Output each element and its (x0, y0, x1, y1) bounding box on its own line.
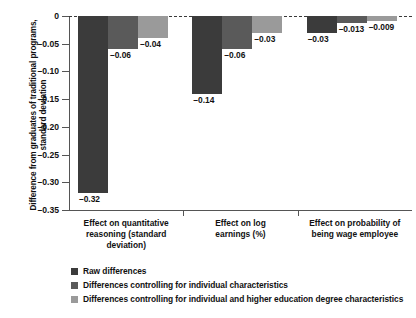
bar-value-label: –0.03 (254, 34, 275, 44)
bar (337, 16, 367, 23)
category-label: Effect on probability ofbeing wage emplo… (298, 218, 412, 240)
legend-label: Differences controlling for individual a… (83, 294, 403, 304)
x-tick-mark (183, 210, 184, 216)
bar-value-label: –0.03 (308, 34, 329, 44)
y-tick-mark (62, 155, 69, 156)
y-tick-label: 0 (13, 11, 59, 21)
bar (138, 16, 168, 38)
bar (192, 16, 222, 94)
bar-value-label: –0.14 (193, 95, 214, 105)
bar-value-label: –0.06 (224, 50, 245, 60)
y-tick-label: –0.15 (13, 94, 59, 104)
y-tick-mark (62, 71, 69, 72)
y-tick-label: –0.30 (13, 177, 59, 187)
bar (222, 16, 252, 49)
y-tick-label: –0.20 (13, 122, 59, 132)
y-tick-label: –0.25 (13, 150, 59, 160)
y-axis-title: Difference from graduates of traditional… (25, 0, 53, 230)
y-tick-mark (62, 16, 69, 17)
bar (252, 16, 282, 33)
legend-swatch-icon (71, 282, 78, 289)
bar (367, 16, 397, 21)
y-tick-label: –0.35 (13, 205, 59, 215)
y-tick-label: –0.05 (13, 39, 59, 49)
category-label-line: earnings (%) (183, 229, 297, 240)
legend-item: Differences controlling for individual a… (71, 292, 403, 306)
legend-item: Differences controlling for individual c… (71, 278, 403, 292)
category-label-line: Effect on probability of (298, 218, 412, 229)
category-label: Effect on quantitativereasoning (standar… (69, 218, 183, 251)
bar-value-label: –0.013 (339, 24, 365, 34)
y-tick-mark (62, 182, 69, 183)
bar-chart: Difference from graduates of traditional… (0, 0, 416, 318)
y-tick-mark (62, 210, 69, 211)
y-tick-mark (62, 44, 69, 45)
bar (307, 16, 337, 33)
legend-swatch-icon (71, 296, 78, 303)
bar-value-label: –0.009 (369, 22, 395, 32)
x-tick-mark (298, 210, 299, 216)
x-axis-line (69, 210, 412, 211)
bar-value-label: –0.04 (140, 39, 161, 49)
category-label-line: Effect on quantitative (69, 218, 183, 229)
y-axis-line (69, 16, 70, 211)
category-label-line: being wage employee (298, 229, 412, 240)
legend-swatch-icon (71, 268, 78, 275)
category-label-line: reasoning (standard (69, 229, 183, 240)
bar-value-label: –0.06 (110, 50, 131, 60)
legend-label: Raw differences (83, 266, 146, 276)
bar (108, 16, 138, 49)
category-label-line: deviation) (69, 240, 183, 251)
category-label: Effect on logearnings (%) (183, 218, 297, 240)
y-tick-mark (62, 99, 69, 100)
y-tick-mark (62, 127, 69, 128)
category-label-line: Effect on log (183, 218, 297, 229)
bar-value-label: –0.32 (79, 194, 100, 204)
y-axis-title-line-2: standard deviation (39, 80, 50, 151)
chart-legend: Raw differencesDifferences controlling f… (71, 264, 403, 306)
y-tick-label: –0.10 (13, 66, 59, 76)
bar (78, 16, 108, 193)
legend-label: Differences controlling for individual c… (83, 280, 288, 290)
legend-item: Raw differences (71, 264, 403, 278)
